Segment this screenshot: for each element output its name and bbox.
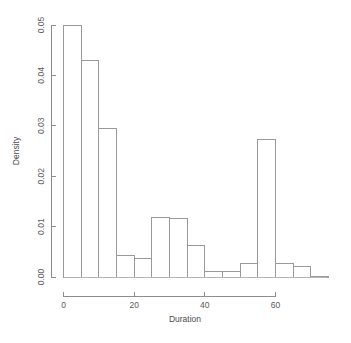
x-axis-tick-labels: 0204060 [61,300,280,310]
histogram-bar [311,277,329,278]
y-axis-tick-label: 0.01 [36,218,46,235]
histogram-bar [81,61,99,277]
x-axis-title: Duration [169,314,201,324]
histogram-bar [240,264,258,277]
histogram-bar [117,256,135,277]
y-axis-tick-label: 0.00 [36,268,46,285]
y-axis-tick-label: 0.04 [36,67,46,84]
histogram-bar [276,264,294,277]
histogram-bar [99,128,117,277]
y-axis-tick-labels: 0.000.010.020.030.040.05 [36,16,46,285]
histogram-bar [293,267,311,277]
y-axis-tick-label: 0.03 [36,117,46,134]
y-axis-title: Density [11,136,21,165]
x-axis-tick-label: 0 [61,300,66,310]
histogram-bar [187,246,205,277]
x-axis-line [64,292,276,297]
x-axis-tick-label: 40 [200,300,210,310]
histogram-bar [223,272,241,277]
plot-canvas: 0.000.010.020.030.040.05 Density 0204060… [0,0,351,343]
y-axis: 0.000.010.020.030.040.05 Density [11,16,56,285]
histogram-bar [205,272,223,277]
x-axis-tick-label: 20 [129,300,139,310]
y-axis-tick-label: 0.02 [36,168,46,185]
histogram-plot: 0.000.010.020.030.040.05 Density 0204060… [0,0,351,343]
histogram-bar [258,139,276,277]
x-axis-tick-label: 60 [271,300,281,310]
y-axis-line [52,25,56,277]
bars-group [64,25,329,277]
histogram-bar [170,218,188,277]
histogram-bar [64,25,82,277]
x-axis: 0204060 Duration [61,292,280,324]
histogram-bar [152,217,170,277]
y-axis-ticks [52,25,56,277]
x-axis-ticks [64,292,276,297]
y-axis-tick-label: 0.05 [36,16,46,33]
histogram-bar [134,259,152,277]
